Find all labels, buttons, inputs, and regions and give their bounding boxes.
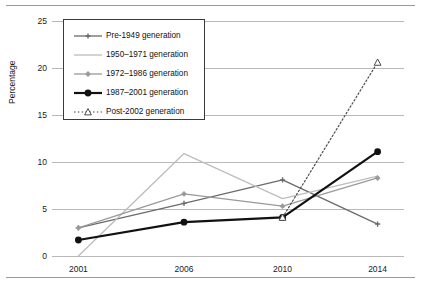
data-point-marker — [85, 33, 90, 38]
gridline-0 — [52, 256, 404, 257]
data-point-marker — [375, 221, 380, 226]
data-point-marker — [85, 89, 92, 96]
series-line — [78, 154, 377, 256]
y-tick-label-20: 20 — [7, 64, 47, 73]
data-point-marker — [374, 148, 381, 155]
series-3 — [76, 175, 381, 231]
legend-swatch-1 — [73, 30, 103, 42]
bottom-divider-rule — [6, 277, 415, 278]
data-point-marker — [374, 59, 381, 65]
y-tick-label-0: 0 — [7, 252, 47, 261]
data-point-marker — [75, 237, 82, 244]
y-tick-label-10: 10 — [7, 158, 47, 167]
legend-item-5[interactable]: Post-2002 generation — [64, 102, 204, 121]
data-point-marker — [181, 201, 186, 206]
legend-item-4[interactable]: 1987–2001 generation — [64, 83, 204, 102]
data-point-marker — [85, 71, 91, 77]
series-2 — [78, 154, 377, 256]
series-line — [78, 152, 377, 240]
top-divider-rule — [6, 5, 415, 6]
data-point-marker — [181, 191, 187, 197]
data-point-marker — [280, 177, 285, 182]
legend: Pre-1949 generation1950–1971 generation1… — [63, 19, 205, 120]
series-1 — [76, 177, 380, 230]
data-point-marker — [280, 203, 286, 209]
legend-swatch-5 — [73, 106, 103, 118]
series-4 — [75, 148, 381, 243]
legend-item-2[interactable]: 1950–1971 generation — [64, 45, 204, 64]
legend-label: Post-2002 generation — [106, 107, 184, 116]
legend-swatch-2 — [73, 49, 103, 61]
legend-swatch-4 — [73, 87, 103, 99]
data-point-marker — [181, 219, 188, 226]
y-tick-label-15: 15 — [7, 111, 47, 120]
y-tick-label-5: 5 — [7, 205, 47, 214]
x-tick-label-2001: 2001 — [48, 264, 108, 274]
x-tick-label-2014: 2014 — [348, 264, 408, 274]
figure: Percentage 0510152025 2001200620102014 P… — [0, 0, 421, 293]
series-line — [283, 62, 378, 217]
y-tick-label-25: 25 — [7, 17, 47, 26]
legend-label: Pre-1949 generation — [106, 31, 181, 40]
x-tick-label-2010: 2010 — [253, 264, 313, 274]
legend-item-3[interactable]: 1972–1986 generation — [64, 64, 204, 83]
legend-label: 1950–1971 generation — [106, 50, 188, 59]
x-tick-label-2006: 2006 — [154, 264, 214, 274]
legend-label: 1972–1986 generation — [106, 69, 188, 78]
legend-item-1[interactable]: Pre-1949 generation — [64, 26, 204, 45]
legend-swatch-3 — [73, 68, 103, 80]
data-point-marker — [76, 225, 82, 231]
legend-label: 1987–2001 generation — [106, 88, 188, 97]
